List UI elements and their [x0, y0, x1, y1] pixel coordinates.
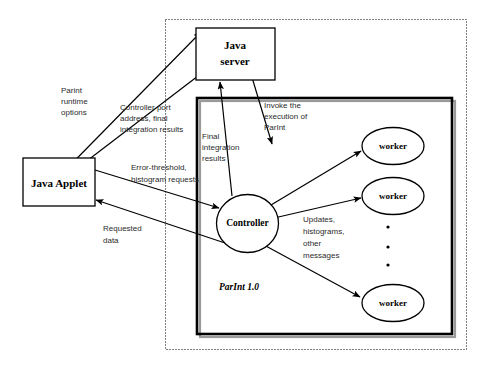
label-controller-port-address: Controller port address, final integrati… [120, 103, 183, 134]
updates-line1: Updates, [303, 215, 335, 224]
parint-system-label: ParInt 1.0 [219, 282, 259, 292]
runtime-options-line3: options [61, 108, 87, 117]
invoke-execution-line1: Invoke the [264, 101, 301, 110]
ellipsis-dot-3 [386, 263, 389, 266]
ellipsis-dot-2 [386, 245, 389, 248]
controller-label: Controller [226, 218, 269, 228]
invoke-execution-line2: execution of [264, 112, 308, 121]
error-threshold-line1: Error-threshold, [131, 163, 187, 172]
worker2-label: worker [379, 191, 407, 201]
updates-line3: other [303, 239, 322, 248]
node-java-applet[interactable]: Java Applet [23, 158, 95, 206]
java-server-label-line2: server [220, 55, 249, 67]
ellipsis-dot-1 [386, 225, 389, 228]
node-worker-1[interactable]: worker [362, 128, 424, 165]
worker3-label: worker [379, 298, 407, 308]
controller-port-line3: integration results [120, 125, 183, 134]
label-final-integration-results: Final integration results [202, 132, 239, 163]
controller-port-line2: address, final [120, 114, 168, 123]
node-controller[interactable]: Controller [217, 195, 279, 253]
requested-data-line1: Requested [103, 224, 142, 233]
node-worker-2[interactable]: worker [362, 178, 424, 215]
runtime-options-line1: Parint [61, 86, 83, 95]
label-parint-runtime-options: Parint runtime options [61, 86, 88, 117]
requested-data-line2: data [103, 236, 119, 245]
label-requested-data: Requested data [103, 224, 142, 245]
final-integration-line3: results [202, 154, 226, 163]
worker-ellipsis [386, 225, 389, 266]
invoke-execution-line3: ParInt [264, 123, 286, 132]
node-java-server[interactable]: Java server [196, 28, 275, 80]
final-integration-line2: integration [202, 143, 239, 152]
worker1-label: worker [379, 141, 407, 151]
final-integration-line1: Final [202, 132, 220, 141]
architecture-diagram: Java Applet Java server Controller worke… [0, 0, 490, 370]
updates-line4: messages [303, 251, 339, 260]
node-worker-3[interactable]: worker [362, 285, 424, 322]
label-updates-histograms: Updates, histograms, other messages [303, 215, 344, 260]
updates-line2: histograms, [303, 227, 344, 236]
controller-port-line1: Controller port [120, 103, 171, 112]
label-invoke-execution: Invoke the execution of ParInt [264, 101, 308, 132]
edge-controller-worker1 [271, 151, 361, 205]
error-threshold-line2: histogram requests [131, 175, 199, 184]
java-server-label-line1: Java [224, 39, 247, 51]
java-applet-label: Java Applet [31, 177, 87, 189]
diagram-canvas: Java Applet Java server Controller worke… [0, 0, 490, 370]
runtime-options-line2: runtime [61, 97, 88, 106]
